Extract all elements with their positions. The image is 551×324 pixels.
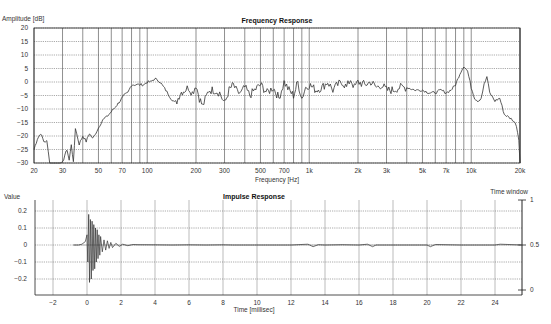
x-tick-label: 5k [419, 167, 427, 174]
x-tick-label: −2 [49, 299, 57, 306]
x-axis-label: Frequency [Hz] [255, 176, 299, 184]
impulse-response-chart: Impulse Response Value Time window 0.20.… [4, 188, 539, 314]
x-tick-label: 18 [389, 299, 397, 306]
x-tick-label: 700 [279, 167, 290, 174]
x-tick-label: 10 [253, 299, 261, 306]
y-tick-label: −30 [17, 159, 28, 166]
x-tick-label: 10k [466, 167, 477, 174]
x-tick-label: 16 [355, 299, 363, 306]
y2-axis-label: Time window [490, 188, 528, 195]
x-tick-label: 50 [95, 167, 103, 174]
x-tick-label: 30 [59, 167, 67, 174]
frequency-response-chart: Frequency Response Amplitude [dB] 201510… [2, 15, 526, 184]
x-tick-label: 2k [355, 167, 363, 174]
x-tick-label: 300 [219, 167, 230, 174]
x-tick-label: 200 [191, 167, 202, 174]
x-tick-label: 3k [383, 167, 391, 174]
measurement-figure: Frequency Response Amplitude [dB] 201510… [0, 0, 551, 324]
x-tick-label: 6 [187, 299, 191, 306]
x-tick-label: 8 [221, 299, 225, 306]
y-tick-labels: 20151050−5−10−15−20−25−30 [17, 24, 28, 166]
y2-tick-label: 0 [530, 286, 534, 293]
amplitude-series-line [34, 67, 520, 163]
y-tick-label: −20 [17, 132, 28, 139]
y-tick-label: 0.2 [18, 207, 27, 214]
x-tick-label: 20 [423, 299, 431, 306]
y-tick-label: 20 [21, 24, 29, 31]
impulse-series-line [73, 214, 522, 282]
y-tick-label: 5 [24, 65, 28, 72]
y-axis-label: Amplitude [dB] [2, 15, 44, 23]
y2-tick-label: 1 [530, 196, 534, 203]
x-tick-label: 1k [306, 167, 314, 174]
x-tick-label: 100 [142, 167, 153, 174]
x-tick-label: 0 [85, 299, 89, 306]
x-tick-labels: 203050701002003005007001k2k3k5k7k10k20k [30, 167, 526, 174]
y-tick-label: −0.2 [14, 275, 27, 282]
x-tick-label: 500 [255, 167, 266, 174]
x-tick-label: 2 [119, 299, 123, 306]
x-tick-label: 20k [515, 167, 526, 174]
x-tick-label: 20 [30, 167, 38, 174]
grid [35, 200, 522, 295]
y-tick-label: −10 [17, 105, 28, 112]
x-tick-label: 4 [153, 299, 157, 306]
x-tick-label: 22 [457, 299, 465, 306]
x-tick-labels: −2024681012141618202224 [49, 299, 499, 306]
x-tick-label: 7k [443, 167, 451, 174]
y-axis-label: Value [4, 193, 21, 200]
y-tick-labels: 0.20.10−0.1−0.2 [14, 207, 27, 282]
y-tick-label: 10 [21, 51, 29, 58]
x-tick-label: 24 [491, 299, 499, 306]
y-tick-label: 15 [21, 38, 29, 45]
y-tick-label: 0 [24, 78, 28, 85]
chart-title: Impulse Response [223, 193, 285, 201]
x-tick-label: 12 [287, 299, 295, 306]
y-tick-label: −15 [17, 119, 28, 126]
y-tick-label: 0 [23, 241, 27, 248]
y-tick-label: −0.1 [14, 258, 27, 265]
x-tick-label: 70 [119, 167, 127, 174]
y-tick-label: −25 [17, 146, 28, 153]
chart-title: Frequency Response [242, 17, 313, 25]
y-tick-label: −5 [21, 92, 29, 99]
y-tick-label: 0.1 [18, 224, 27, 231]
x-tick-label: 14 [321, 299, 329, 306]
y2-tick-label: 0.5 [530, 241, 539, 248]
x-axis-label: Time [millisec] [234, 306, 275, 314]
